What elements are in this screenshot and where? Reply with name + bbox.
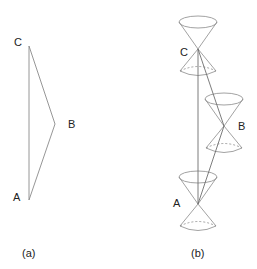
label-c-b: C — [180, 46, 188, 58]
past-cone-rim-back-a — [180, 222, 216, 227]
past-cone-rim-back-b — [206, 144, 242, 149]
worldline-c-to-b-b — [198, 49, 224, 126]
future-cone-rim-b — [205, 93, 243, 105]
worldline-b-to-a-b — [198, 126, 224, 204]
panel-b: C B A (b) — [173, 16, 245, 259]
label-b-b: B — [238, 120, 245, 132]
label-b: B — [68, 118, 75, 130]
past-cone-rim-front-a — [180, 226, 216, 231]
segment-c-to-b — [29, 46, 55, 124]
segment-b-to-a — [29, 124, 55, 200]
panel-a: C B A (a) — [13, 36, 75, 259]
spacetime-diagram: C B A (a) — [0, 0, 257, 269]
label-a-b: A — [173, 197, 181, 209]
caption-a: (a) — [22, 247, 35, 259]
past-cone-rim-front-b — [206, 148, 242, 153]
future-cone-rim-c — [179, 16, 217, 28]
label-a: A — [13, 191, 21, 203]
label-c: C — [14, 36, 22, 48]
caption-b: (b) — [191, 247, 204, 259]
